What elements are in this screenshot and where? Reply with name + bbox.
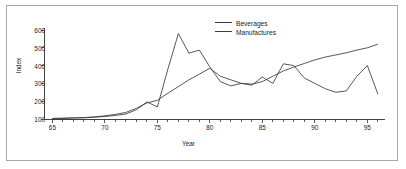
legend-item-manufactures: Manufactures: [215, 28, 276, 36]
series-line-manufactures: [52, 44, 377, 118]
legend-swatch-beverages: [215, 22, 232, 23]
chart-svg: [0, 0, 406, 169]
legend-swatch-manufactures: [215, 31, 232, 32]
legend-label-beverages: Beverages: [236, 20, 268, 27]
legend-label-manufactures: Manufactures: [236, 29, 276, 36]
chart-plot-area: Index Year 100200300400500600 6570758085…: [0, 0, 406, 169]
legend-item-beverages: Beverages: [215, 19, 268, 27]
series-line-beverages: [52, 34, 377, 119]
